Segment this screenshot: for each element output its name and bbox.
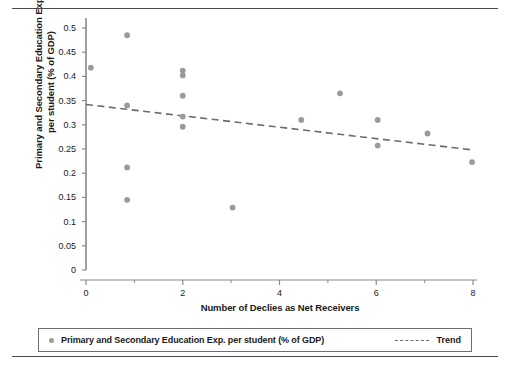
legend-circle-marker-icon: [49, 338, 54, 343]
data-point-marker: [180, 93, 186, 99]
y-tick-label: 0.5: [40, 23, 76, 33]
data-point-marker: [124, 164, 130, 170]
trend-line-path: [86, 104, 473, 149]
y-tick-label: 0.35: [40, 96, 76, 106]
y-tick-label: 0.45: [40, 47, 76, 57]
y-tick-label: 0.2: [40, 168, 76, 178]
y-tick-label: 0.25: [40, 144, 76, 154]
data-point-marker: [124, 197, 130, 203]
data-point-marker: [180, 73, 186, 79]
y-tick-label: 0: [40, 265, 76, 275]
x-tick-label: 4: [267, 288, 293, 298]
data-point-marker: [180, 114, 186, 120]
y-tick-label: 0.4: [40, 71, 76, 81]
y-tick-label: 0.05: [40, 241, 76, 251]
data-point-marker: [375, 117, 381, 123]
data-point-marker: [124, 103, 130, 109]
x-tick-label: 2: [170, 288, 196, 298]
data-point-marker: [469, 159, 475, 165]
data-point-marker: [124, 32, 130, 38]
y-tick-label: 0.15: [40, 192, 76, 202]
data-point-marker: [425, 131, 431, 137]
data-point-marker: [298, 117, 304, 123]
top-divider-rule: [12, 8, 498, 9]
scatter-chart: Primary and Secondary Education Exp. per…: [0, 10, 509, 354]
axis-lines: [80, 18, 477, 280]
legend-trend-label: Trend: [436, 335, 461, 345]
figure-page: Primary and Secondary Education Exp. per…: [0, 0, 509, 370]
trend-line: [86, 104, 473, 149]
legend-series-label: Primary and Secondary Education Exp. per…: [61, 335, 324, 345]
chart-legend: Primary and Secondary Education Exp. per…: [38, 328, 472, 352]
y-tick-label: 0.3: [40, 120, 76, 130]
x-axis-title: Number of Declies as Net Receivers: [86, 302, 474, 313]
legend-item-series: Primary and Secondary Education Exp. per…: [49, 335, 324, 345]
x-tick-label: 0: [73, 288, 99, 298]
legend-dashed-line-icon: [395, 340, 429, 341]
x-tick-label: 8: [460, 288, 486, 298]
data-point-marker: [88, 65, 94, 71]
legend-item-trend: Trend: [395, 335, 461, 345]
data-point-marker: [337, 90, 343, 96]
data-point-marker: [230, 205, 236, 211]
data-point-marker: [375, 143, 381, 149]
y-tick-label: 0.1: [40, 217, 76, 227]
x-tick-label: 6: [363, 288, 389, 298]
data-points: [88, 32, 475, 210]
tick-marks: [82, 28, 473, 285]
bottom-divider-rule: [12, 356, 498, 357]
data-point-marker: [180, 124, 186, 130]
